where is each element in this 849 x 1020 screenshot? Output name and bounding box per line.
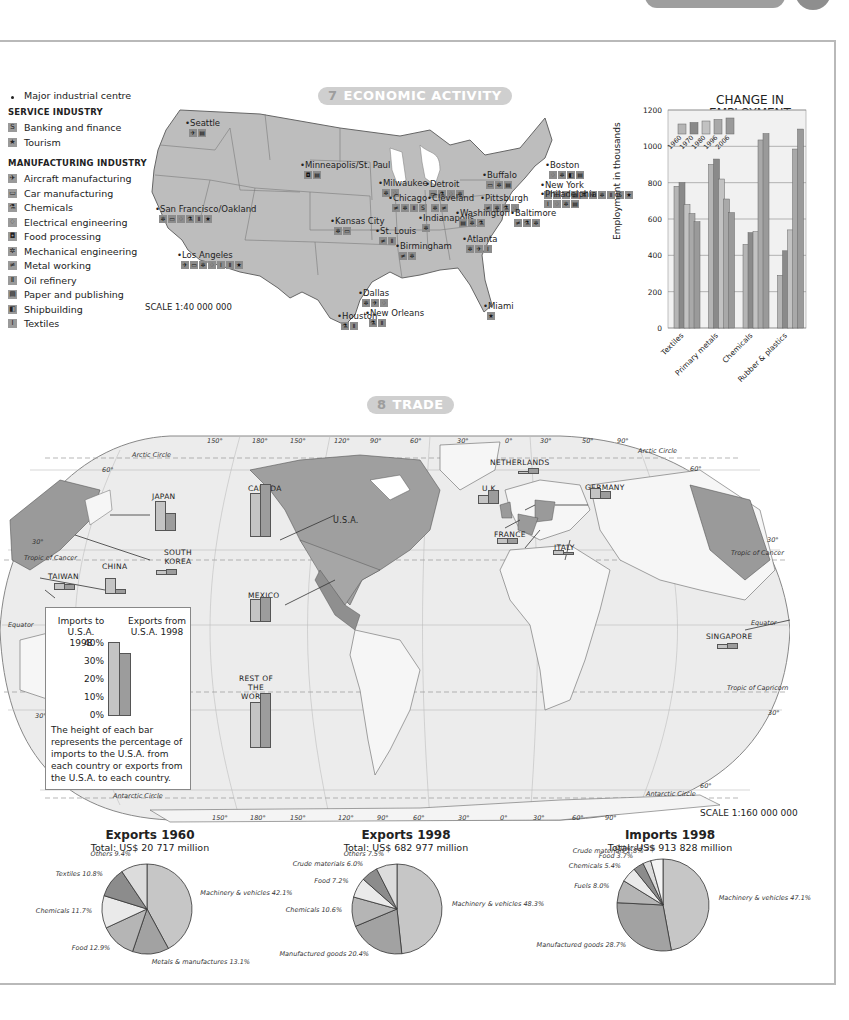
city-industry-icons: ⚗Ⅱ (369, 319, 386, 327)
longitude-label: 120° (338, 814, 354, 822)
trade-bar-pair (105, 578, 126, 594)
arctic-circle-label: Arctic Circle (132, 451, 171, 459)
legend-item-aircraft-manufacturing: ✈Aircraft manufacturing (8, 172, 158, 187)
country-label-usa: U.S.A. (333, 516, 359, 525)
legend-heading-manufacturing: MANUFACTURING INDUSTRY (8, 158, 158, 168)
longitude-label: 150° (290, 814, 306, 822)
legend-label: Mechanical engineering (24, 246, 137, 257)
employment-bar-chart: 020040060080010001200TextilesPrimary met… (630, 100, 810, 410)
aircraft-manufacturing-icon: ✈ (8, 174, 17, 183)
exports-bar (727, 643, 738, 649)
city-label: •St. Louis (375, 226, 416, 236)
longitude-label: 30° (540, 437, 552, 445)
city-label: •New Orleans (365, 308, 424, 318)
trade-bar-pair (497, 538, 518, 544)
exports-bar (64, 584, 75, 590)
legend-label: Metal working (24, 260, 91, 271)
industry-icon: ★ (487, 312, 495, 320)
city-industry-icons: ◘▤ (304, 171, 321, 179)
industry-icon: ≠ (392, 204, 400, 212)
legend-label: Car manufacturing (24, 188, 113, 199)
city-label: •Seattle (185, 118, 220, 128)
industry-icon: ✲ (362, 299, 370, 307)
latitude-label: 30° (768, 709, 780, 717)
industry-icon: ▤ (571, 200, 579, 208)
svg-text:1000: 1000 (643, 142, 662, 151)
industry-icon: ≠ (379, 237, 387, 245)
legend-label: Shipbuilding (24, 304, 83, 315)
industry-icon: ✲ (422, 224, 430, 232)
trade-bar-key: Imports toU.S.A. 1998 Exports fromU.S.A.… (45, 607, 191, 790)
longitude-label: 90° (377, 814, 389, 822)
city-industry-icons: ✲ (422, 224, 430, 232)
industry-icon: ▭ (486, 181, 494, 189)
city-industry-icons: ≠✲ⅡS (392, 204, 427, 212)
industry-icon: ▭ (343, 227, 351, 235)
exports-bar (260, 597, 271, 622)
legend-major-centre: Major industrial centre (8, 88, 158, 103)
banking-and-finance-icon: S (8, 123, 17, 132)
industry-icon: S (419, 204, 427, 212)
legend-label: Major industrial centre (24, 90, 131, 101)
legend-label: Aircraft manufacturing (24, 173, 132, 184)
city-label: •Chicago (388, 193, 427, 203)
city-industry-icons: ≠✲ (399, 252, 416, 260)
pie-total: Total: US$ 913 828 million (575, 842, 765, 853)
key-tick: 20% (74, 674, 104, 684)
shipbuilding-icon: ◧ (8, 305, 17, 314)
industry-icon: ★ (235, 261, 243, 269)
city-label: •Washington (455, 208, 510, 218)
city-industry-icons: ⚗Ⅱ (341, 322, 358, 330)
svg-text:200: 200 (648, 288, 663, 297)
longitude-label: 150° (212, 814, 228, 822)
industry-icon: ⚗ (186, 215, 194, 223)
longitude-label: 90° (370, 437, 382, 445)
industry-icon: Ⅰ (484, 245, 492, 253)
legend-item-car-manufacturing: ▭Car manufacturing (8, 186, 158, 201)
city-industry-icons: Ⅰ♢✲▤ (544, 200, 579, 208)
industry-icon: ✈ (189, 129, 197, 137)
trade-bar-pair (478, 490, 499, 504)
country-label: JAPAN (152, 492, 176, 501)
country-label: SINGAPORE (706, 632, 753, 641)
exports-bar (260, 693, 271, 748)
country-label: CHINA (102, 562, 127, 571)
industry-icon: ⚗ (341, 322, 349, 330)
city-label: •Pittsburgh (480, 193, 528, 203)
svg-text:Textiles: Textiles (659, 331, 686, 358)
industry-icon: ✲ (562, 200, 570, 208)
exports-bar (563, 552, 574, 555)
legend-item-tourism: ★Tourism (8, 135, 158, 150)
trade-bar-pair (553, 550, 574, 555)
city-label: •Milwaukee (378, 178, 428, 188)
industry-icon: ✲ (495, 181, 503, 189)
industry-icon: ✲ (558, 171, 566, 179)
legend-heading-service: SERVICE INDUSTRY (8, 107, 158, 117)
chemicals-icon: ⚗ (8, 203, 17, 212)
industry-icon: ◧ (567, 171, 575, 179)
legend-item-paper-and-publishing: ▤Paper and publishing (8, 288, 158, 303)
page-number-circle (795, 0, 831, 10)
exports-bar (507, 538, 518, 544)
legend-label: Oil refinery (24, 275, 77, 286)
latitude-label: 60° (700, 782, 712, 790)
industry-icon: ✲ (598, 191, 606, 199)
industry-icon: ≠ (440, 204, 448, 212)
trade-bar-pair (54, 583, 75, 590)
page-header-tab (645, 0, 785, 8)
svg-text:800: 800 (648, 179, 663, 188)
city-label: •Miami (483, 301, 514, 311)
key-tick: 10% (74, 692, 104, 702)
city-label: •Detroit (425, 179, 459, 189)
exports-bar (488, 490, 499, 504)
industry-icon: ✲ (408, 252, 416, 260)
industry-icon: Ⅰ (217, 261, 225, 269)
legend-item-textiles: ⅠTextiles (8, 317, 158, 332)
trade-bar-pair (250, 693, 271, 748)
industry-icon: ♢ (549, 171, 557, 179)
arctic-circle-label: Arctic Circle (638, 447, 677, 455)
industry-icon: ✈ (181, 261, 189, 269)
key-export-bar (119, 653, 131, 716)
pie-title: Exports 1960 (60, 828, 240, 842)
pie-total: Total: US$ 20 717 million (60, 842, 240, 853)
